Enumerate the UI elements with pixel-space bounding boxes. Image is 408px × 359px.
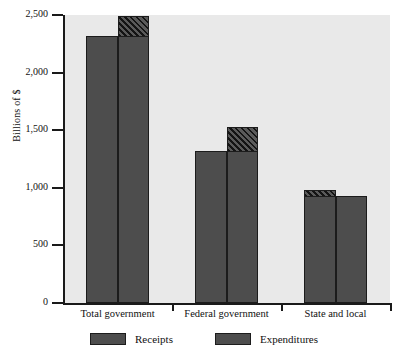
y-tick-1500	[52, 129, 63, 131]
category-label-0: Total government	[63, 308, 172, 319]
bar-expenditures-1	[227, 127, 259, 303]
y-tick-label-1000: 1,000	[0, 181, 48, 192]
bar-chart: Billions of $ 05001,0001,5002,0002,500 T…	[0, 0, 408, 359]
hatched-segment-1	[228, 128, 258, 152]
bar-expenditures-2	[336, 196, 368, 303]
legend-item-expenditures[interactable]: Expenditures	[215, 333, 318, 345]
y-tick-label-2500: 2,500	[0, 8, 48, 19]
legend-swatch-expenditures	[215, 333, 251, 345]
x-tick-end	[390, 303, 392, 311]
category-label-2: State and local	[281, 308, 390, 319]
bar-receipts-0	[86, 36, 118, 303]
y-tick-0	[52, 302, 63, 304]
legend-label-expenditures: Expenditures	[260, 333, 318, 345]
y-tick-1000	[52, 187, 63, 189]
legend-label-receipts: Receipts	[135, 333, 173, 345]
y-tick-label-500: 500	[0, 238, 48, 249]
y-tick-label-0: 0	[0, 296, 48, 307]
legend-swatch-receipts	[90, 333, 126, 345]
y-tick-2500	[52, 14, 63, 16]
hatched-segment-0	[119, 17, 149, 37]
hatched-segment-2	[305, 191, 335, 197]
y-tick-2000	[52, 72, 63, 74]
y-tick-500	[52, 244, 63, 246]
bar-receipts-2	[304, 190, 336, 303]
chart-legend: ReceiptsExpenditures	[0, 333, 408, 345]
x-axis-line	[63, 303, 392, 305]
legend-item-receipts[interactable]: Receipts	[90, 333, 173, 345]
y-tick-label-2000: 2,000	[0, 66, 48, 77]
bar-expenditures-0	[118, 16, 150, 303]
bar-receipts-1	[195, 151, 227, 303]
category-label-1: Federal government	[172, 308, 281, 319]
y-tick-label-1500: 1,500	[0, 123, 48, 134]
